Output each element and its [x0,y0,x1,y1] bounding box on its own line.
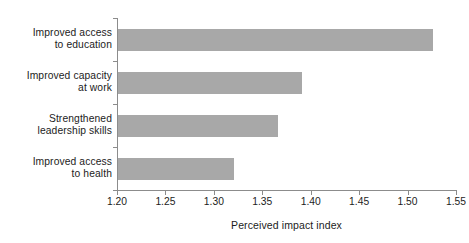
x-axis-title: Perceived impact index [117,219,456,231]
y-tick-mark [113,18,117,19]
bar [118,72,302,94]
y-tick-mark [113,104,117,105]
x-tick-label: 1.40 [289,196,333,208]
x-tick-mark [117,190,118,195]
bar [118,115,278,137]
x-tick-label: 1.45 [337,196,381,208]
x-axis-line [117,190,456,191]
x-tick-mark [214,190,215,195]
x-tick-mark [165,190,166,195]
x-tick-label: 1.20 [95,196,139,208]
x-tick-mark [408,190,409,195]
x-tick-mark [456,190,457,195]
category-label-1: Improved capacity at work [0,70,112,95]
category-label-3: Improved access to health [0,156,112,181]
x-tick-mark [311,190,312,195]
category-label-0: Improved access to education [0,27,112,52]
x-tick-label: 1.25 [143,196,187,208]
category-label-2: Strengthened leadership skills [0,113,112,138]
x-tick-mark [359,190,360,195]
bar [118,158,234,180]
bar-chart: Improved access to education Improved ca… [0,0,469,243]
x-tick-label: 1.50 [386,196,430,208]
y-tick-mark [113,61,117,62]
x-tick-label: 1.55 [434,196,469,208]
plot-area: 1.201.251.301.351.401.451.501.55 [117,18,456,190]
x-tick-label: 1.30 [192,196,236,208]
x-tick-mark [262,190,263,195]
y-tick-mark [113,147,117,148]
bar [118,29,433,51]
x-tick-label: 1.35 [240,196,284,208]
